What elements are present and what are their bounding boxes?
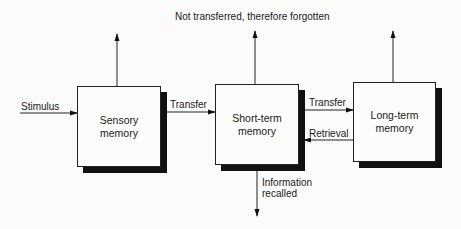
short-term-memory-box: Short-termmemory (215, 84, 299, 165)
box-label-line2: memory (232, 125, 282, 138)
transfer-label-2: Transfer (309, 97, 346, 108)
transfer-label-1: Transfer (170, 99, 207, 110)
output-label-line2: recalled (262, 188, 312, 199)
sensory-memory-box: Sensorymemory (77, 86, 161, 167)
box-label-line1: Long-term (371, 109, 419, 122)
long-term-memory-box: Long-termmemory (353, 82, 436, 162)
retrieval-label: Retrieval (309, 128, 348, 139)
box-label-line2: memory (100, 127, 139, 140)
stimulus-label: Stimulus (21, 101, 59, 112)
information-recalled-label: Information recalled (262, 177, 312, 199)
box-label-line1: Short-term (232, 112, 282, 125)
output-label-line1: Information (262, 177, 312, 188)
box-label-line2: memory (371, 122, 419, 135)
box-label-line1: Sensory (100, 114, 139, 127)
forgotten-label: Not transferred, therefore forgotten (175, 11, 330, 22)
